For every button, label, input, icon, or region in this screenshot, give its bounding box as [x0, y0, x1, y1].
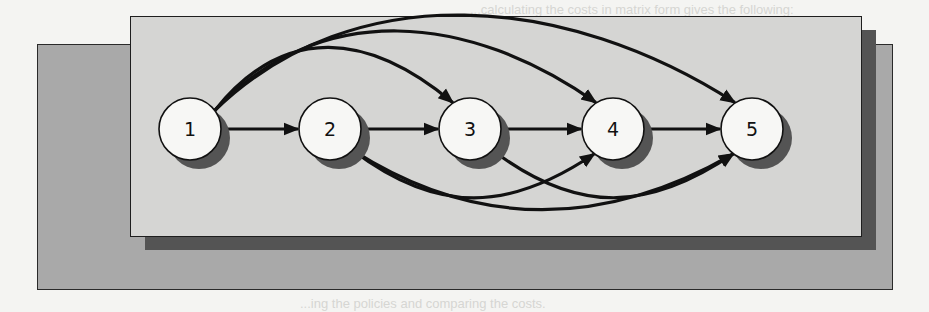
- edge-1-to-5: [215, 15, 735, 110]
- node-1: 1: [159, 98, 230, 169]
- nodes-group: 12345: [159, 98, 792, 169]
- node-5: 5: [721, 98, 792, 169]
- node-2: 2: [299, 98, 370, 169]
- node-3: 3: [439, 98, 510, 169]
- node-3-label: 3: [464, 118, 476, 140]
- node-4-label: 4: [607, 118, 619, 140]
- node-2-label: 2: [324, 118, 336, 140]
- node-1-label: 1: [184, 118, 196, 140]
- node-5-label: 5: [746, 118, 758, 140]
- network-diagram: 12345: [0, 0, 929, 312]
- node-4: 4: [582, 98, 653, 169]
